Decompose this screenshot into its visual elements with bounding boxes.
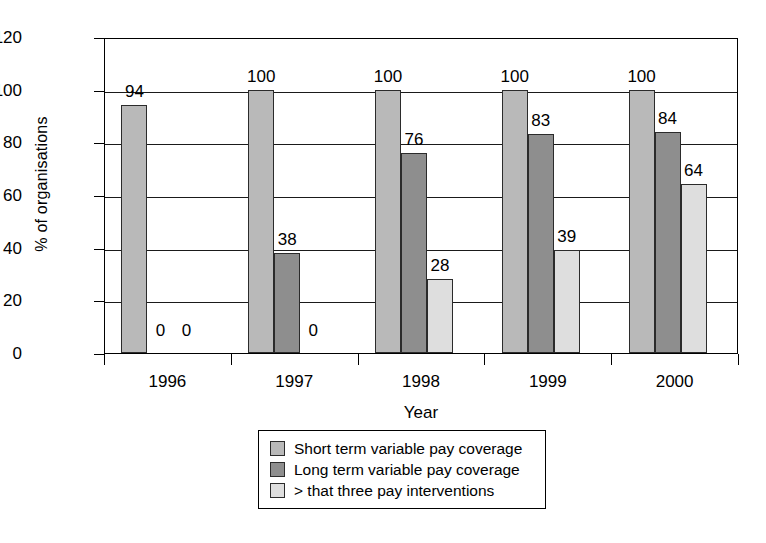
bar-value-label: 100 bbox=[374, 68, 402, 85]
legend-swatch-icon bbox=[270, 483, 285, 498]
bar[interactable]: 28 bbox=[427, 279, 453, 353]
x-axis-tick-label: 1999 bbox=[488, 372, 608, 392]
y-axis-tick-label: 80 bbox=[0, 134, 22, 151]
x-axis-tick-mark bbox=[484, 354, 485, 365]
bar-group: 100380 bbox=[232, 39, 359, 353]
legend-item-label: > that three pay interventions bbox=[294, 482, 494, 500]
bar-value-label: 0 bbox=[156, 322, 165, 339]
bar-value-label: 76 bbox=[405, 131, 424, 148]
bar-value-label: 83 bbox=[531, 112, 550, 129]
y-axis-tick-label: 100 bbox=[0, 82, 22, 99]
bar-group-inner: 9400 bbox=[121, 39, 199, 353]
bar[interactable]: 100 bbox=[629, 90, 655, 353]
bar-group: 1008464 bbox=[612, 39, 739, 353]
x-axis-title: Year bbox=[104, 403, 738, 423]
bar-group-inner: 1007628 bbox=[375, 39, 453, 353]
bar[interactable]: 100 bbox=[248, 90, 274, 353]
legend-swatch-icon bbox=[270, 441, 285, 456]
bar-value-label: 38 bbox=[278, 231, 297, 248]
x-axis-tick-mark bbox=[611, 354, 612, 365]
bar[interactable]: 84 bbox=[655, 132, 681, 353]
bar-group-inner: 100380 bbox=[248, 39, 326, 353]
bar[interactable]: 39 bbox=[554, 250, 580, 353]
x-axis-tick-mark bbox=[358, 354, 359, 365]
bar-value-label: 84 bbox=[658, 110, 677, 127]
legend-item-label: Long term variable pay coverage bbox=[294, 461, 520, 479]
y-axis-tick-label: 0 bbox=[0, 345, 22, 362]
bar-group: 1008339 bbox=[485, 39, 612, 353]
bar-value-label: 64 bbox=[684, 162, 703, 179]
y-axis-title: % of organisations bbox=[33, 54, 51, 314]
x-axis-tick-label: 2000 bbox=[615, 372, 735, 392]
y-axis-tick-label: 120 bbox=[0, 29, 22, 46]
chart-legend: Short term variable pay coverageLong ter… bbox=[258, 430, 546, 509]
x-axis-tick-mark bbox=[738, 354, 739, 365]
plot-area: 9400100380100762810083391008464 bbox=[104, 38, 738, 354]
x-axis-tick-label: 1998 bbox=[361, 372, 481, 392]
bar-group-inner: 1008464 bbox=[629, 39, 707, 353]
legend-swatch-icon bbox=[270, 462, 285, 477]
bar[interactable]: 64 bbox=[681, 184, 707, 353]
legend-item[interactable]: Long term variable pay coverage bbox=[270, 459, 537, 480]
x-axis-tick-label: 1996 bbox=[107, 372, 227, 392]
bar-value-label: 28 bbox=[431, 257, 450, 274]
x-axis-tick-label: 1997 bbox=[234, 372, 354, 392]
bar[interactable]: 83 bbox=[528, 134, 554, 353]
bar-value-label: 94 bbox=[125, 83, 144, 100]
y-axis-tick-label: 60 bbox=[0, 187, 22, 204]
bar[interactable]: 100 bbox=[502, 90, 528, 353]
bar[interactable]: 76 bbox=[401, 153, 427, 353]
bar[interactable]: 100 bbox=[375, 90, 401, 353]
bar[interactable]: 38 bbox=[274, 253, 300, 353]
bar-value-label: 0 bbox=[308, 322, 317, 339]
bar-value-label: 39 bbox=[557, 228, 576, 245]
bar-group: 9400 bbox=[105, 39, 232, 353]
y-axis-tick-label: 40 bbox=[0, 240, 22, 257]
bar-value-label: 100 bbox=[247, 68, 275, 85]
bar-value-label: 100 bbox=[501, 68, 529, 85]
x-axis-tick-mark bbox=[231, 354, 232, 365]
x-axis-tick-mark bbox=[104, 354, 105, 365]
bar-value-label: 0 bbox=[182, 322, 191, 339]
bar[interactable]: 94 bbox=[121, 105, 147, 353]
bar-group-inner: 1008339 bbox=[502, 39, 580, 353]
bar-group: 1007628 bbox=[359, 39, 486, 353]
bar-chart-figure: % of organisations 020406080100120 94001… bbox=[0, 0, 766, 543]
legend-item[interactable]: > that three pay interventions bbox=[270, 480, 537, 501]
y-axis-tick-label: 20 bbox=[0, 292, 22, 309]
bar-value-label: 100 bbox=[627, 68, 655, 85]
legend-item[interactable]: Short term variable pay coverage bbox=[270, 438, 537, 459]
legend-item-label: Short term variable pay coverage bbox=[294, 440, 522, 458]
